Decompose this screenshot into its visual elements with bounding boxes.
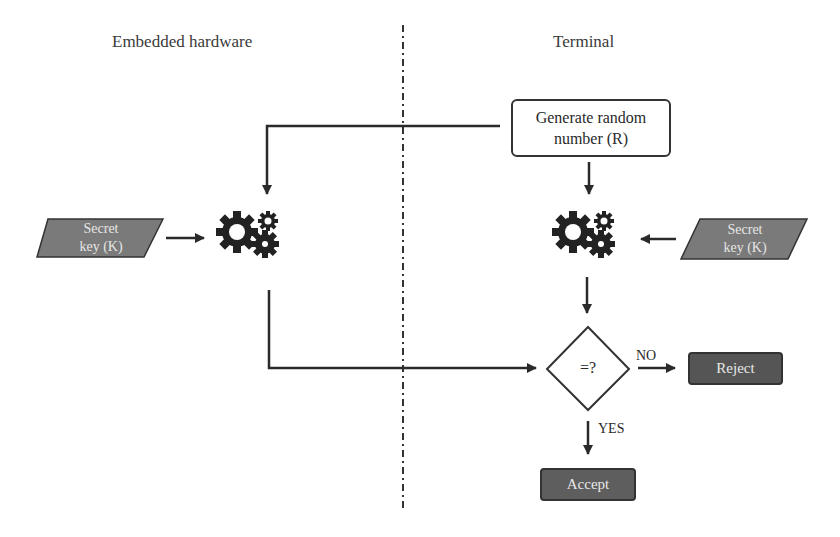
generate-random-number-box: Generate random number (R) [511,99,671,157]
yes-label: YES [598,421,624,437]
heading-terminal: Terminal [553,32,614,52]
secret-key-right-line-2: key (K) [723,239,766,257]
generate-line-2: number (R) [554,128,628,149]
secret-key-left: Secret key (K) [40,219,162,257]
secret-key-left-line-1: Secret [84,220,119,238]
gears-icon [552,211,615,258]
generate-line-1: Generate random [536,107,647,128]
reject-box: Reject [688,352,783,385]
secret-key-left-line-2: key (K) [79,238,122,256]
heading-embedded-hardware: Embedded hardware [112,32,252,52]
gears-icon [216,211,279,258]
arrow-random-to-hardware [267,126,500,194]
diagram-canvas [0,0,840,537]
compare-label: =? [558,359,618,377]
accept-box: Accept [540,468,636,501]
secret-key-right-line-1: Secret [728,221,763,239]
secret-key-right: Secret key (K) [684,220,806,258]
no-label: NO [636,348,656,364]
